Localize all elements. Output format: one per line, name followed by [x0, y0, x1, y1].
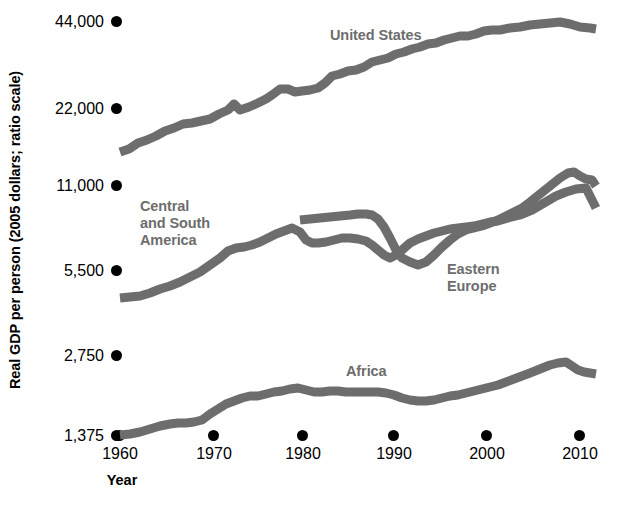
- series-label-africa: Africa: [346, 363, 387, 380]
- series-line-eastern-europe: [300, 172, 596, 265]
- gdp-line-chart: Real GDP per person (2005 dollars; ratio…: [0, 0, 617, 515]
- plot-area: [0, 0, 617, 515]
- series-label-central-south-america: Central and South America: [140, 198, 210, 248]
- series-label-eastern-europe: Eastern Europe: [447, 261, 500, 295]
- series-label-united-states: United States: [330, 27, 421, 44]
